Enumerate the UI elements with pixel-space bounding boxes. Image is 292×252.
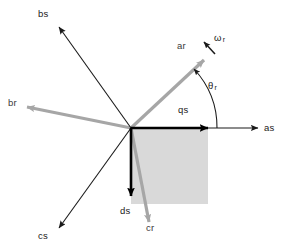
axis-label-cs: cs	[38, 231, 48, 241]
omega-symbol: ω	[214, 32, 222, 43]
axis-label-cr: cr	[146, 223, 154, 233]
axis-label-as: as	[264, 123, 274, 133]
diagram-canvas: bs br cs cr ds qs as ar θr ωr	[0, 0, 292, 252]
omega-r-arrow	[204, 42, 215, 54]
omega-subscript: r	[223, 36, 226, 43]
axis-line-bs	[59, 27, 131, 128]
axis-label-bs: bs	[38, 9, 48, 19]
angle-arc-theta-r	[194, 69, 217, 128]
annotation-theta-r: θr	[208, 81, 217, 91]
annotation-omega-r: ωr	[214, 33, 225, 43]
axis-line-ar	[131, 60, 204, 128]
axis-label-qs: qs	[178, 105, 188, 115]
axis-label-ar: ar	[177, 41, 186, 51]
diagram-vector-layer	[0, 0, 292, 252]
axis-line-br	[27, 107, 131, 128]
theta-subscript: r	[214, 84, 217, 91]
axis-label-ds: ds	[120, 206, 130, 216]
axis-label-br: br	[8, 98, 17, 108]
theta-symbol: θ	[208, 80, 213, 91]
